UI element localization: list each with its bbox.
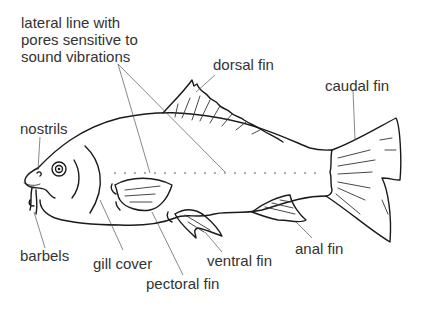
- leader-barbels: [34, 212, 45, 248]
- dorsal-fin: [163, 80, 283, 142]
- label-lateral-line: lateral line with pores sensitive to sou…: [21, 14, 138, 65]
- leader-anal-fin: [296, 222, 312, 238]
- label-pectoral-fin: pectoral fin: [146, 275, 219, 292]
- label-anal-fin: anal fin: [295, 240, 343, 257]
- fish-diagram: lateral line with pores sensitive to sou…: [0, 0, 421, 310]
- label-barbels: barbels: [20, 247, 69, 264]
- label-nostrils: nostrils: [20, 120, 68, 137]
- label-dorsal-fin: dorsal fin: [213, 56, 274, 73]
- leader-pectoral-fin: [152, 212, 183, 275]
- label-ventral-fin: ventral fin: [207, 252, 272, 269]
- label-caudal-fin: caudal fin: [325, 77, 389, 94]
- fish-body-outline: [38, 113, 332, 226]
- leader-nostrils: [38, 137, 40, 170]
- caudal-fin: [326, 118, 401, 242]
- lateral-line: [114, 172, 316, 174]
- barbels: [29, 188, 37, 214]
- label-gill-cover: gill cover: [93, 255, 152, 272]
- leader-caudal-fin: [353, 90, 355, 140]
- nostril: [37, 172, 41, 176]
- gill-cover-outline: [85, 146, 100, 213]
- leader-dorsal-fin: [196, 75, 215, 92]
